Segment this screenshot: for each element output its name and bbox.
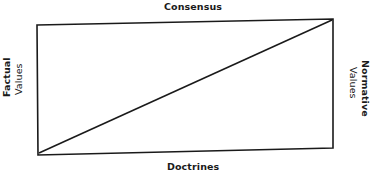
top-label-consensus: Consensus: [164, 2, 222, 12]
right-label-normative: Normative: [361, 60, 371, 117]
diagram-canvas: [0, 0, 372, 176]
right-label-values: Values: [349, 67, 359, 99]
bottom-label-doctrines: Doctrines: [167, 162, 219, 172]
left-label-factual: Factual: [2, 57, 12, 97]
diagonal-line: [39, 20, 332, 153]
left-label-values: Values: [14, 63, 24, 95]
